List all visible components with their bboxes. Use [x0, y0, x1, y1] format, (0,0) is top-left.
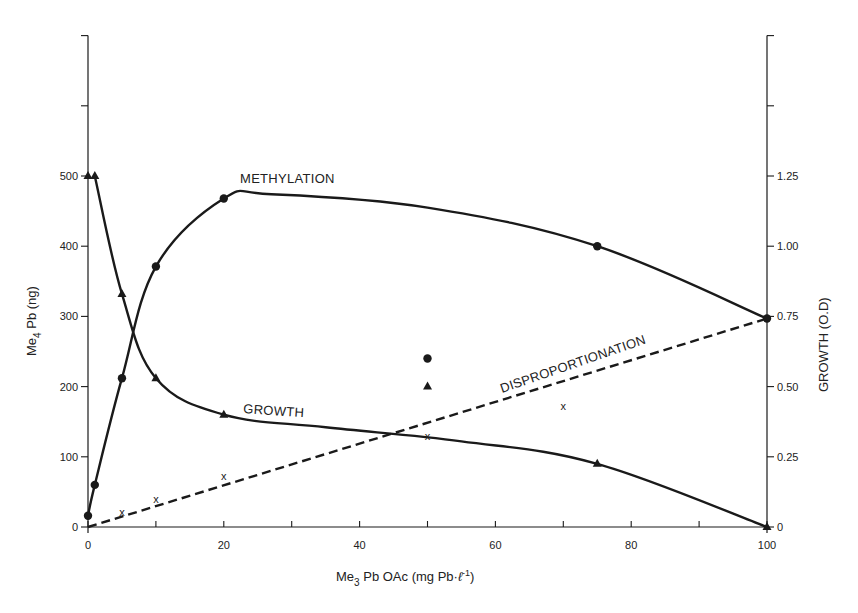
- curves: [88, 176, 767, 527]
- right-y-tick-label: 0.75: [777, 310, 798, 322]
- right-y-tick-label: 1.00: [777, 240, 798, 252]
- chart: 020406080100010020030040050000.250.500.7…: [0, 0, 858, 613]
- x-tick-label: 80: [625, 539, 637, 551]
- data-markers: xxxxx: [84, 171, 772, 530]
- methylation-point: [118, 374, 126, 382]
- left-y-tick-label: 400: [60, 240, 78, 252]
- x-tick-label: 100: [758, 539, 776, 551]
- left-y-tick-label: 0: [72, 521, 78, 533]
- left-y-axis-title: Me4 Pb (ng): [24, 286, 43, 356]
- methylation-point: [152, 262, 160, 270]
- right-y-tick-label: 0.50: [777, 381, 798, 393]
- growth-outlier-point: [423, 382, 432, 390]
- right-y-tick-label: 0: [777, 521, 783, 533]
- disproportionation-point: x: [153, 493, 159, 505]
- growth-point: [117, 289, 126, 297]
- right-y-tick-label: 1.25: [777, 170, 798, 182]
- disproportionation-point: x: [425, 430, 431, 442]
- methylation-label: METHYLATION: [240, 171, 335, 186]
- left-y-tick-label: 300: [60, 310, 78, 322]
- disproportionation-line: [88, 319, 767, 527]
- methylation-point: [220, 194, 228, 202]
- disproportionation-point: x: [561, 400, 567, 412]
- left-y-tick-label: 100: [60, 451, 78, 463]
- methylation-point: [91, 481, 99, 489]
- disproportionation-point: x: [119, 506, 125, 518]
- right-y-tick-label: 0.25: [777, 451, 798, 463]
- disproportionation-label: DISPROPORTIONATION: [498, 332, 648, 396]
- growth-label: GROWTH: [243, 401, 305, 420]
- x-tick-label: 20: [218, 539, 230, 551]
- methylation-point: [593, 242, 601, 250]
- axes: 020406080100010020030040050000.250.500.7…: [60, 36, 799, 551]
- x-tick-label: 0: [85, 539, 91, 551]
- methylation-point: [84, 512, 92, 520]
- curve-labels: METHYLATIONGROWTHDISPROPORTIONATION: [240, 171, 648, 420]
- x-axis-title: Me3 Pb OAc (mg Pb·ℓ-1): [336, 568, 474, 588]
- methylation-outlier-point: [423, 354, 431, 362]
- chart-canvas: 020406080100010020030040050000.250.500.7…: [0, 0, 858, 613]
- x-tick-label: 60: [489, 539, 501, 551]
- growth-point: [90, 171, 99, 179]
- methylation-point: [763, 314, 771, 322]
- left-y-tick-label: 200: [60, 381, 78, 393]
- left-y-tick-label: 500: [60, 170, 78, 182]
- methylation-curve: [88, 191, 767, 516]
- disproportionation-point: x: [221, 470, 227, 482]
- x-tick-label: 40: [353, 539, 365, 551]
- growth-curve: [95, 176, 767, 527]
- right-y-axis-title: GROWTH (O.D): [816, 297, 831, 392]
